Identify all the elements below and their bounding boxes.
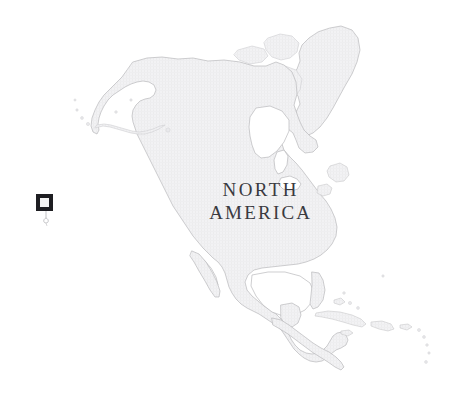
map-location-marker[interactable] (36, 194, 53, 211)
region-lesser-antilles-1 (418, 329, 421, 332)
region-bahamas-islet-2 (357, 307, 360, 310)
region-trinidad (425, 361, 428, 364)
region-lesser-antilles-2 (423, 336, 426, 339)
region-puerto-rico (400, 324, 412, 330)
region-bahamas-islet-3 (343, 292, 346, 295)
region-aleutian-islet-4 (74, 99, 76, 101)
map-canvas (0, 0, 457, 395)
region-aleutian-islet-3 (76, 109, 78, 111)
region-kodiak-island (166, 128, 170, 132)
region-aleutian-islet-1 (86, 122, 89, 125)
region-newfoundland (327, 163, 349, 182)
region-arctic-islands-north (234, 46, 268, 64)
region-florida (310, 272, 325, 309)
region-hispaniola (371, 321, 394, 331)
region-lesser-antilles-4 (428, 352, 430, 354)
region-bermuda (382, 275, 384, 277)
region-ellesmere-island (264, 34, 299, 60)
region-bahamas (334, 298, 345, 305)
region-pribilof-islands (115, 111, 118, 114)
region-bahamas-islet-1 (348, 301, 351, 304)
region-bering-islet (130, 99, 132, 101)
region-cuba (315, 311, 366, 327)
region-nova-scotia (317, 184, 332, 196)
north-america-map-graphic (0, 0, 457, 395)
region-aleutian-islet-2 (81, 117, 84, 120)
region-lesser-antilles-3 (426, 344, 429, 347)
map-location-marker-core (40, 198, 49, 207)
